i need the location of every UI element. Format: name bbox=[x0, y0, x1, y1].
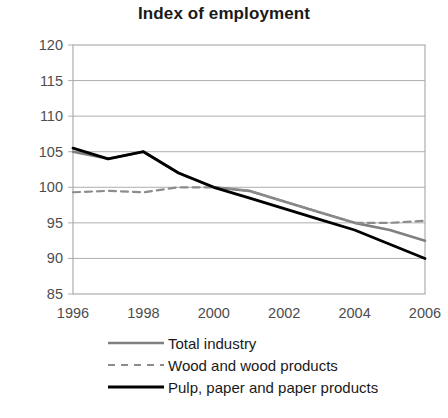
y-tick-label-95: 95 bbox=[47, 215, 63, 231]
y-tick-label-90: 90 bbox=[47, 250, 63, 266]
y-tick-label-115: 115 bbox=[40, 73, 63, 89]
series-line-wood-and-wood-products bbox=[73, 187, 425, 223]
series-line-total-industry bbox=[73, 152, 425, 241]
y-tick-label-85: 85 bbox=[47, 286, 63, 302]
employment-index-chart: Index of employment 85909510010511011512… bbox=[0, 0, 448, 418]
x-tick-label-2000: 2000 bbox=[198, 305, 230, 321]
x-tick-label-2004: 2004 bbox=[338, 305, 370, 321]
y-tick-label-110: 110 bbox=[40, 108, 63, 124]
x-tick-label-1998: 1998 bbox=[127, 305, 159, 321]
legend-label-1: Wood and wood products bbox=[168, 357, 338, 374]
x-tick-label-1996: 1996 bbox=[57, 305, 89, 321]
legend-label-0: Total industry bbox=[168, 335, 257, 352]
y-axis-tick-labels: 859095100105110115120 bbox=[39, 37, 63, 302]
y-axis-tick-marks bbox=[68, 45, 73, 294]
x-tick-label-2006: 2006 bbox=[409, 305, 441, 321]
gridlines-group bbox=[73, 81, 425, 259]
x-tick-label-2002: 2002 bbox=[268, 305, 300, 321]
y-tick-label-120: 120 bbox=[39, 37, 63, 53]
x-axis-tick-labels: 199619982000200220042006 bbox=[57, 305, 441, 321]
y-tick-label-100: 100 bbox=[39, 179, 63, 195]
y-tick-label-105: 105 bbox=[39, 144, 63, 160]
plot-frame bbox=[73, 45, 425, 294]
chart-legend: Total industryWood and wood productsPulp… bbox=[108, 335, 378, 396]
data-series-group bbox=[73, 148, 425, 258]
series-line-pulp-paper-and-paper-products bbox=[73, 148, 425, 258]
chart-canvas: 859095100105110115120 199619982000200220… bbox=[0, 0, 448, 418]
legend-label-2: Pulp, paper and paper products bbox=[168, 379, 378, 396]
plot-area-border bbox=[73, 45, 425, 294]
